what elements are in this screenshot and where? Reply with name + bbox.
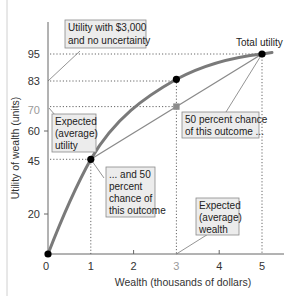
curve-label-total-utility: Total utility xyxy=(236,37,283,48)
y-tick-label-70: 70 xyxy=(28,104,40,116)
x-axis-title: Wealth (thousands of dollars) xyxy=(115,276,251,288)
note-expected-wealth-line-3: wealth xyxy=(198,224,228,235)
y-axis-title: Utility of wealth (units) xyxy=(9,97,21,200)
note-expected-wealth: Expected (average) wealth xyxy=(196,198,242,235)
x-tick-label-2: 2 xyxy=(131,260,137,272)
point-3-83 xyxy=(173,76,180,83)
point-5-95 xyxy=(258,50,265,57)
note-fifty-low: ... and 50 percent chance of this outcom… xyxy=(106,167,166,217)
point-1-45 xyxy=(87,156,94,163)
x-tick-label-3: 3 xyxy=(173,260,179,272)
note-fifty-low-line-3: chance of xyxy=(109,193,153,204)
note-expected-utility-line-3: utility xyxy=(55,140,78,151)
note-fifty-low-line-2: percent xyxy=(109,181,143,192)
point-0-0 xyxy=(44,250,51,257)
y-tick-label-60: 60 xyxy=(28,125,40,137)
note-expected-utility-line-1: Expected xyxy=(55,116,97,127)
note-fifty-high-line-1: 50 percent chance xyxy=(185,114,268,125)
x-tick-label-1: 1 xyxy=(88,260,94,272)
y-tick-label-20: 20 xyxy=(28,208,40,220)
note-expected-wealth-line-2: (average) xyxy=(199,212,242,223)
note-fifty-high-line-2: of this outcome ... xyxy=(185,126,264,137)
note-expected-utility: Expected (average) utility xyxy=(52,114,98,152)
note-certain-line-2: and no uncertainty xyxy=(68,35,150,46)
note-fifty-low-line-1: ... and 50 xyxy=(109,169,151,180)
note-expected-utility-line-2: (average) xyxy=(55,128,98,139)
x-tick-label-0: 0 xyxy=(43,260,49,272)
x-tick-label-4: 4 xyxy=(216,260,222,272)
utility-chart: Utility of wealth (units) 95 83 70 60 45… xyxy=(0,0,296,296)
x-tick-label-5: 5 xyxy=(259,260,265,272)
y-tick-label-95: 95 xyxy=(28,48,40,60)
leader-fifty-high xyxy=(226,54,262,112)
point-3-70-expected xyxy=(173,103,179,109)
leader-certain-utility xyxy=(48,51,80,81)
y-tick-label-45: 45 xyxy=(28,155,40,167)
y-tick-label-83: 83 xyxy=(28,75,40,87)
note-expected-wealth-line-1: Expected xyxy=(199,200,241,211)
note-fifty-low-line-4: this outcome xyxy=(109,205,166,216)
note-fifty-high: 50 percent chance of this outcome ... xyxy=(182,112,268,138)
note-certain-utility: Utility with $3,000 and no uncertainty xyxy=(65,20,150,48)
note-certain-line-1: Utility with $3,000 xyxy=(68,22,147,33)
